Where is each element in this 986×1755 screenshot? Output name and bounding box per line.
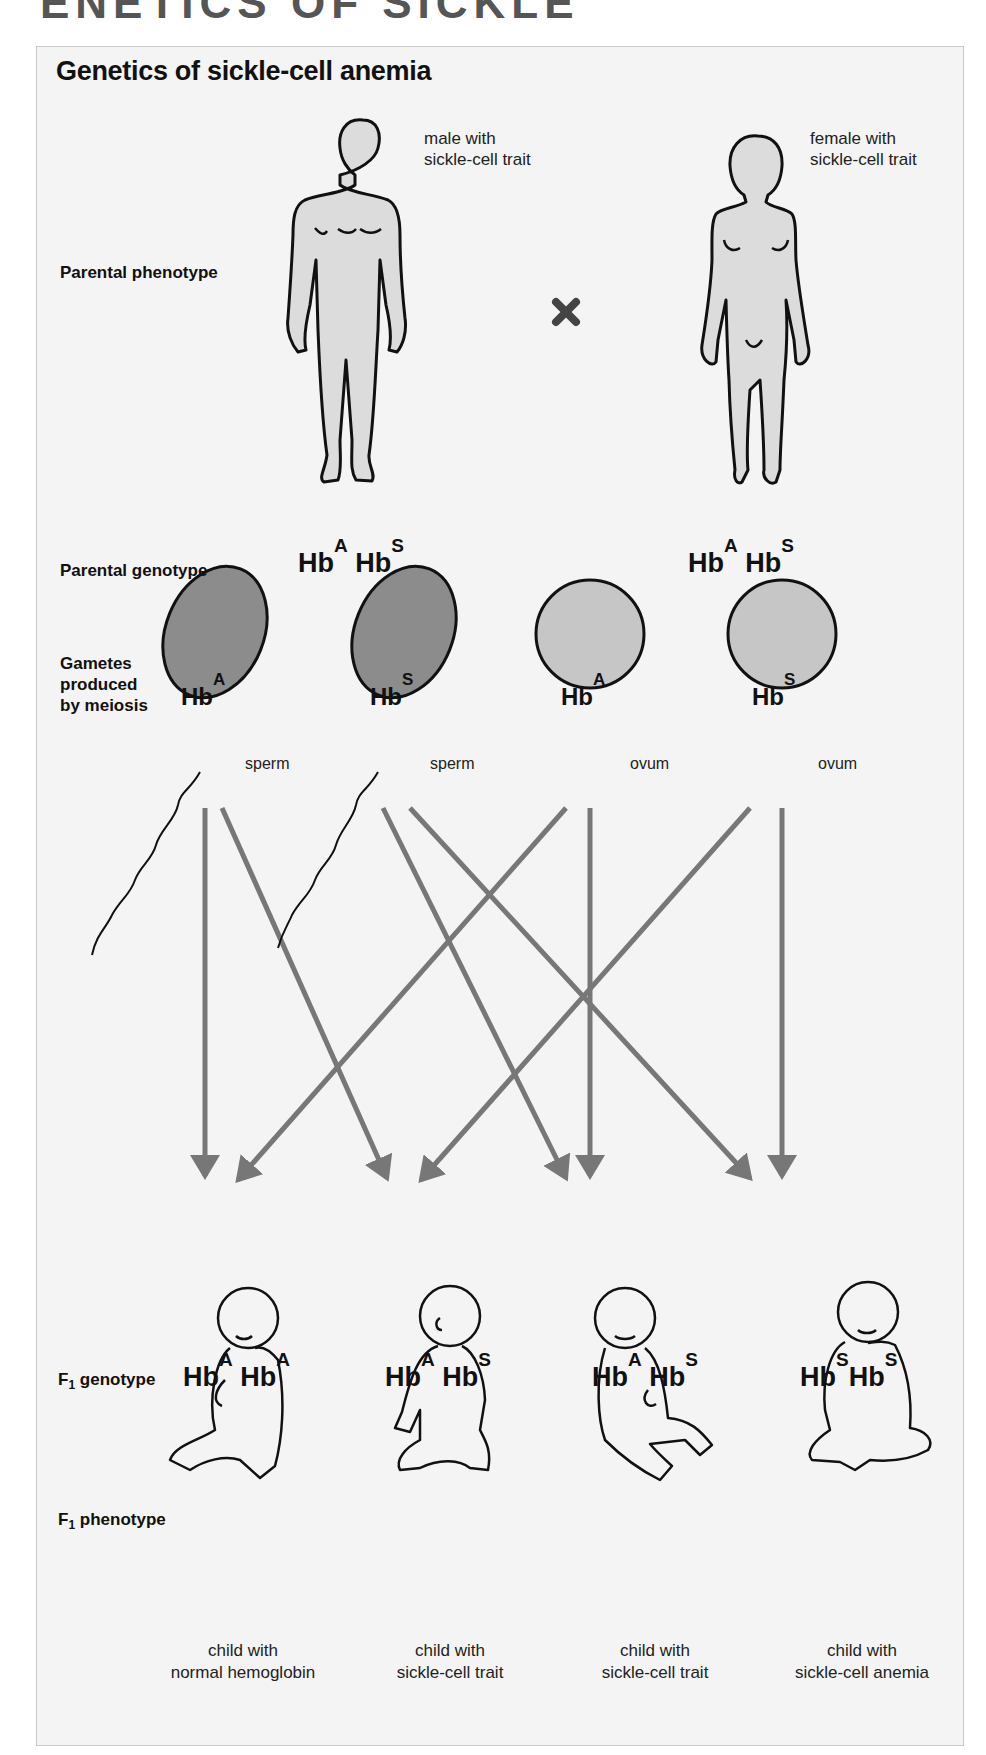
- cross-symbol-icon: [556, 302, 576, 322]
- offspring-caption-3: child withsickle-cell anemia: [762, 1640, 962, 1684]
- label-f1-phenotype: F1 phenotype: [58, 1510, 166, 1532]
- label-gametes-line3: by meiosis: [60, 695, 148, 716]
- offspring-genotype-3: HbSHbS: [800, 1362, 897, 1393]
- male-note-line1: male with: [424, 128, 531, 149]
- male-figure-icon: [288, 120, 406, 482]
- gamete-type-2: ovum: [630, 755, 669, 773]
- offspring-caption-1: child withsickle-cell trait: [350, 1640, 550, 1684]
- female-genotype: HbA HbS: [688, 548, 794, 579]
- diagram-title: Genetics of sickle-cell anemia: [56, 56, 431, 87]
- offspring-genotype-1: HbA HbS: [385, 1362, 491, 1393]
- gamete-label-1: HbS: [370, 683, 413, 711]
- label-gametes: Gametes produced by meiosis: [60, 653, 148, 716]
- offspring-caption-2: child withsickle-cell trait: [555, 1640, 755, 1684]
- gamete-label-2: HbA: [561, 683, 605, 711]
- gamete-ovum-A-icon: [536, 580, 644, 688]
- male-note: male with sickle-cell trait: [424, 128, 531, 170]
- male-note-line2: sickle-cell trait: [424, 149, 531, 170]
- female-figure-icon: [702, 136, 809, 483]
- label-gametes-line2: produced: [60, 674, 148, 695]
- arrow-spermA-to-AS: [222, 808, 387, 1178]
- label-parental-phenotype: Parental phenotype: [60, 262, 218, 283]
- sperm-tails: [92, 772, 378, 955]
- offspring-caption-0: child withnormal hemoglobin: [143, 1640, 343, 1684]
- offspring-genotype-2: HbA HbS: [592, 1362, 698, 1393]
- male-genotype: HbA HbS: [298, 548, 404, 579]
- gamete-label-3: HbS: [752, 683, 795, 711]
- female-note: female with sickle-cell trait: [810, 128, 917, 170]
- arrow-ovumA-to-AA: [238, 808, 566, 1180]
- label-f1-genotype: F1 genotype: [58, 1370, 155, 1392]
- gamete-type-3: ovum: [818, 755, 857, 773]
- female-note-line2: sickle-cell trait: [810, 149, 917, 170]
- female-note-line1: female with: [810, 128, 917, 149]
- label-parental-genotype: Parental genotype: [60, 560, 207, 581]
- gamete-label-0: HbA: [181, 683, 225, 711]
- gamete-ovum-S-icon: [728, 580, 836, 688]
- gamete-type-1: sperm: [430, 755, 474, 773]
- gamete-type-0: sperm: [245, 755, 289, 773]
- label-gametes-line1: Gametes: [60, 653, 148, 674]
- inheritance-arrows: [205, 808, 782, 1180]
- offspring-genotype-0: HbA HbA: [183, 1362, 290, 1393]
